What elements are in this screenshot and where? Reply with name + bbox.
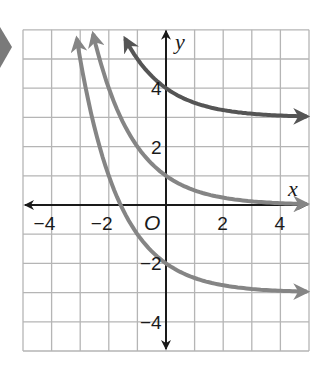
exponential-graph: −4−22442−2−4Oxy (0, 0, 328, 379)
curve-2 (77, 39, 307, 292)
x-tick-label: −4 (34, 213, 56, 234)
y-tick-label: 4 (151, 78, 162, 99)
section-marker-icon (0, 27, 12, 68)
curves (77, 34, 307, 292)
y-tick-label: 2 (151, 137, 162, 158)
origin-label: O (144, 211, 160, 234)
x-tick-label: 4 (274, 213, 285, 234)
x-tick-label: −2 (91, 213, 113, 234)
x-tick-label: 2 (217, 213, 228, 234)
y-axis-label: y (173, 29, 185, 54)
y-tick-label: −2 (140, 253, 162, 274)
axes (25, 31, 307, 349)
y-tick-label: −4 (140, 312, 162, 333)
x-axis-label: x (287, 176, 298, 201)
